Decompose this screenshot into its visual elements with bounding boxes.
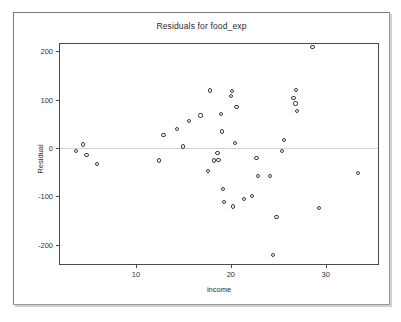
data-point — [74, 149, 78, 153]
data-point — [216, 158, 220, 162]
data-point — [356, 171, 360, 175]
data-point — [294, 88, 298, 92]
page-title: Residuals for food_exp — [14, 21, 389, 31]
data-point — [242, 197, 246, 201]
data-point — [219, 112, 223, 116]
y-tick-label: -200 — [38, 240, 53, 249]
data-point — [231, 204, 235, 208]
plot-area: 2001000-100-200 102030 — [59, 43, 379, 265]
x-axis-label: income — [59, 285, 379, 294]
data-point — [254, 156, 258, 160]
x-tick — [231, 264, 232, 268]
data-point — [157, 158, 161, 162]
data-point — [181, 144, 185, 148]
y-tick-label: -100 — [38, 192, 53, 201]
data-point — [310, 45, 314, 49]
data-point — [271, 253, 275, 257]
data-point — [221, 187, 225, 191]
figure-panel: Residuals for food_exp Residual income 2… — [13, 12, 390, 305]
y-tick-label: 100 — [40, 95, 53, 104]
y-axis-label: Residual — [36, 144, 45, 173]
data-point — [187, 119, 191, 123]
data-point — [222, 200, 226, 204]
x-tick-label: 30 — [322, 270, 330, 279]
data-point — [84, 153, 88, 157]
data-point — [215, 151, 219, 155]
data-point — [81, 142, 85, 146]
data-point — [317, 206, 321, 210]
data-point — [175, 127, 179, 131]
data-point — [233, 141, 237, 145]
data-point — [95, 162, 99, 166]
data-point — [229, 94, 233, 98]
data-point — [198, 113, 202, 117]
x-tick — [136, 264, 137, 268]
data-point — [274, 215, 278, 219]
data-point — [295, 109, 299, 113]
data-point — [256, 174, 260, 178]
x-tick-label: 10 — [132, 270, 140, 279]
x-tick — [326, 264, 327, 268]
data-point — [220, 129, 224, 133]
data-point — [161, 133, 165, 137]
scatter-points — [60, 44, 378, 264]
data-point — [268, 174, 272, 178]
data-point — [208, 88, 212, 92]
data-point — [230, 89, 234, 93]
y-tick-label: 200 — [40, 47, 53, 56]
y-tick-label: 0 — [49, 143, 53, 152]
data-point — [293, 101, 297, 105]
data-point — [291, 96, 295, 100]
data-point — [250, 194, 254, 198]
data-point — [206, 169, 210, 173]
data-point — [282, 138, 286, 142]
data-point — [280, 149, 284, 153]
x-tick-label: 20 — [227, 270, 235, 279]
data-point — [212, 158, 216, 162]
data-point — [234, 105, 238, 109]
